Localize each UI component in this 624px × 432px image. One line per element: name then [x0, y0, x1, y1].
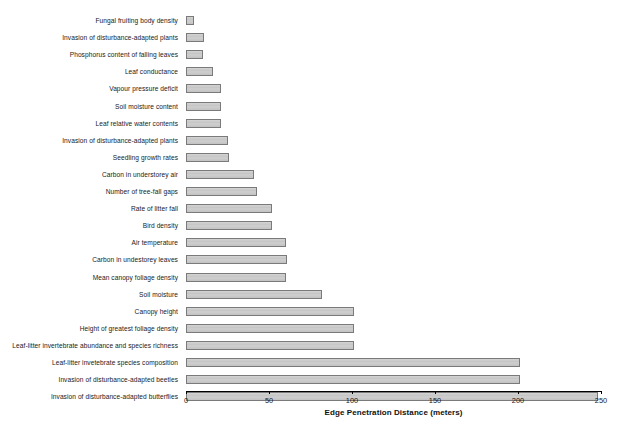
x-axis-tick	[269, 391, 270, 394]
x-axis-tick-label: 200	[512, 396, 524, 405]
bar-row: Air temperature	[0, 234, 624, 251]
bar-row: Leaf relative water contents	[0, 115, 624, 132]
bar-row: Invasion of disturbance-adapted beetles	[0, 371, 624, 388]
bar	[186, 67, 213, 76]
bar-category-label: Leaf conductance	[0, 67, 182, 76]
bar-row: Bird density	[0, 217, 624, 234]
bar-category-label: Height of greatest foliage density	[0, 324, 182, 333]
bar-track	[186, 341, 354, 350]
bar-track	[186, 324, 354, 333]
bar-category-label: Fungal fruiting body density	[0, 16, 182, 25]
bar	[186, 307, 354, 316]
bar-row: Leaf-litter invetebrate species composit…	[0, 354, 624, 371]
bar	[186, 324, 354, 333]
bar-category-label: Invasion of disturbance-adapted plants	[0, 33, 182, 42]
bar-row: Canopy height	[0, 303, 624, 320]
bar-row: Invasion of disturbance-adapted plants	[0, 132, 624, 149]
bar-row: Fungal fruiting body density	[0, 12, 624, 29]
bar-row: Leaf-litter invertebrate abundance and s…	[0, 337, 624, 354]
bar-track	[186, 204, 272, 213]
bar-track	[186, 102, 221, 111]
bar	[186, 238, 286, 247]
bar-track	[186, 392, 598, 401]
bar-row: Carbon in undestorey leaves	[0, 251, 624, 268]
bar-row: Number of tree-fall gaps	[0, 183, 624, 200]
x-axis-line	[186, 391, 601, 392]
bar-category-label: Vapour pressure deficit	[0, 84, 182, 93]
bar	[186, 136, 228, 145]
x-axis-tick	[435, 391, 436, 394]
bar	[186, 204, 272, 213]
bar-track	[186, 119, 221, 128]
bar	[186, 84, 221, 93]
x-axis-title: Edge Penetration Distance (meters)	[186, 408, 601, 417]
x-axis-tick-label: 150	[429, 396, 441, 405]
bar-category-label: Mean canopy foliage density	[0, 273, 182, 282]
bar-chart: Fungal fruiting body densityInvasion of …	[0, 0, 624, 432]
x-axis-tick-label: 100	[346, 396, 358, 405]
bar-track	[186, 273, 286, 282]
x-axis-tick-label: 0	[184, 396, 188, 405]
bar-category-label: Carbon in understorey air	[0, 170, 182, 179]
bar-category-label: Canopy height	[0, 307, 182, 316]
bar-row: Carbon in understorey air	[0, 166, 624, 183]
bar-track	[186, 238, 286, 247]
bar-track	[186, 375, 520, 384]
x-axis-tick	[518, 391, 519, 394]
bar	[186, 102, 221, 111]
bar-track	[186, 307, 354, 316]
bar	[186, 255, 287, 264]
bar-category-label: Rate of litter fall	[0, 204, 182, 213]
bar-track	[186, 84, 221, 93]
bar-track	[186, 358, 520, 367]
bar-category-label: Air temperature	[0, 238, 182, 247]
bar-track	[186, 50, 203, 59]
bar-category-label: Number of tree-fall gaps	[0, 187, 182, 196]
bar	[186, 119, 221, 128]
bar	[186, 50, 203, 59]
bar-category-label: Invasion of disturbance-adapted plants	[0, 136, 182, 145]
bar	[186, 375, 520, 384]
bar-row: Invasion of disturbance-adapted plants	[0, 29, 624, 46]
bar	[186, 170, 254, 179]
bar	[186, 273, 286, 282]
bar	[186, 16, 194, 25]
bar-row: Soil moisture	[0, 286, 624, 303]
bar-row: Vapour pressure deficit	[0, 80, 624, 97]
plot-area: Fungal fruiting body densityInvasion of …	[0, 0, 624, 432]
bar-row: Seedling growth rates	[0, 149, 624, 166]
bar-category-label: Leaf-litter invetebrate species composit…	[0, 358, 182, 367]
bar-category-label: Invasion of disturbance-adapted beetles	[0, 375, 182, 384]
bar-row: Soil moisture content	[0, 98, 624, 115]
bar-row: Leaf conductance	[0, 63, 624, 80]
bar-row: Phosphorus content of falling leaves	[0, 46, 624, 63]
bar-track	[186, 170, 254, 179]
x-axis-tick	[186, 391, 187, 394]
bar	[186, 153, 229, 162]
bar	[186, 358, 520, 367]
bar	[186, 33, 204, 42]
bar	[186, 187, 257, 196]
bar-track	[186, 290, 322, 299]
bar-track	[186, 67, 213, 76]
bar-track	[186, 221, 272, 230]
bar-category-label: Soil moisture content	[0, 102, 182, 111]
x-axis-tick	[352, 391, 353, 394]
bar	[186, 392, 598, 401]
x-axis-tick-label: 250	[595, 396, 607, 405]
x-axis-tick-label: 50	[265, 396, 273, 405]
bar-track	[186, 255, 287, 264]
bar-category-label: Soil moisture	[0, 290, 182, 299]
bar-category-label: Leaf-litter invertebrate abundance and s…	[0, 341, 182, 350]
bar-row: Rate of litter fall	[0, 200, 624, 217]
bar-category-label: Seedling growth rates	[0, 153, 182, 162]
bar-track	[186, 187, 257, 196]
bar-row: Mean canopy foliage density	[0, 269, 624, 286]
bar-category-label: Invasion of disturbance-adapted butterfl…	[0, 392, 182, 401]
x-axis-tick	[601, 391, 602, 394]
bar-category-label: Phosphorus content of falling leaves	[0, 50, 182, 59]
bar-category-label: Carbon in undestorey leaves	[0, 255, 182, 264]
bar	[186, 221, 272, 230]
bar-track	[186, 16, 194, 25]
bar	[186, 341, 354, 350]
